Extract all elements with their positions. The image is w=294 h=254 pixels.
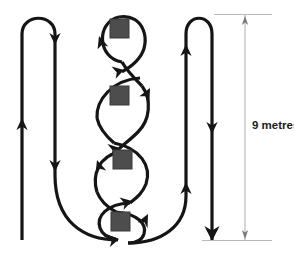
left-hairpin-curve	[22, 18, 55, 34]
loop-1-exit-down-arrow-icon	[112, 67, 125, 79]
dimension-annotation-group: 9 metres	[202, 15, 294, 241]
marker-square-2	[110, 86, 129, 105]
right-hairpin-curve	[186, 18, 212, 34]
marker-square-1	[110, 19, 129, 38]
diagram-canvas: 9 metres	[0, 0, 294, 254]
path-diagram-svg: 9 metres	[0, 0, 294, 254]
marker-squares-group	[110, 19, 132, 231]
marker-square-4	[111, 212, 130, 231]
dimension-label: 9 metres	[252, 119, 294, 131]
crossing-strand-2	[97, 118, 114, 143]
marker-square-3	[113, 150, 132, 169]
